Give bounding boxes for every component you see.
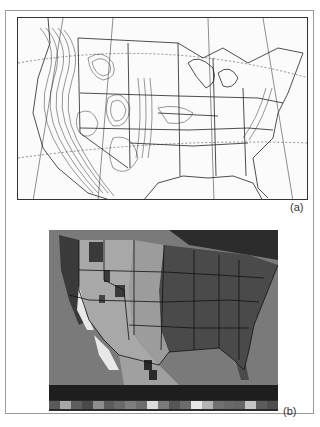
legend-swatch: [147, 401, 158, 409]
legend-band: [49, 385, 278, 400]
legend-swatch: [180, 401, 191, 409]
panel-a-label: (a): [290, 201, 303, 213]
legend-swatch: [213, 401, 224, 409]
legend-swatch: [191, 401, 202, 409]
color-legend: [49, 400, 278, 411]
shaded-map-graphic: [49, 230, 278, 385]
legend-swatch: [93, 401, 104, 409]
legend-swatch: [202, 401, 213, 409]
legend-swatch: [267, 401, 278, 409]
legend-swatch: [71, 401, 82, 409]
legend-swatch: [82, 401, 93, 409]
legend-swatch: [224, 401, 235, 409]
shaded-map-panel-b: [49, 230, 278, 385]
legend-swatch: [169, 401, 180, 409]
legend-swatch: [245, 401, 256, 409]
legend-swatch: [234, 401, 245, 409]
panel-b-label: (b): [283, 405, 296, 417]
contour-map-graphic: [18, 18, 308, 200]
legend-swatch: [114, 401, 125, 409]
legend-swatch: [256, 401, 267, 409]
legend-swatch: [125, 401, 136, 409]
legend-swatch: [104, 401, 115, 409]
legend-swatch: [158, 401, 169, 409]
legend-swatch: [60, 401, 71, 409]
legend-swatch: [136, 401, 147, 409]
legend-swatch: [49, 401, 60, 409]
contour-map-panel-a: [17, 17, 308, 200]
